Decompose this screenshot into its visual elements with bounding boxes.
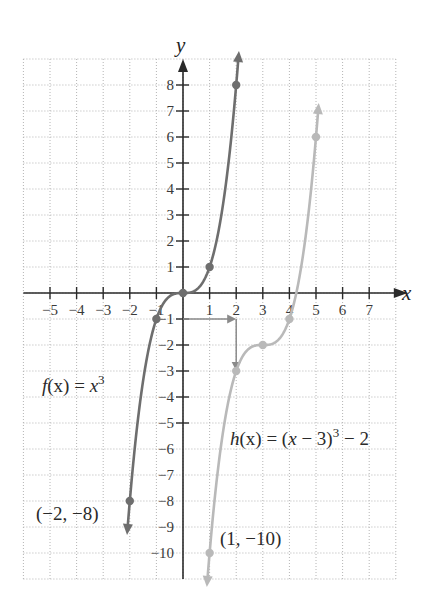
data-point (152, 315, 160, 323)
point-label-h: (1, −10) (220, 528, 281, 550)
curve-end-arrow-icon (233, 51, 243, 62)
data-point (232, 367, 240, 375)
y-axis-label: y (174, 33, 186, 57)
x-tick-label: 5 (312, 302, 320, 318)
y-tick-label: −7 (158, 467, 174, 483)
x-tick-label: 7 (365, 302, 373, 318)
data-point (285, 315, 293, 323)
y-tick-label: 1 (167, 259, 175, 275)
y-tick-label: −8 (158, 493, 174, 509)
h-name: h (230, 428, 240, 449)
y-tick-label: −4 (158, 389, 174, 405)
y-tick-label: 7 (167, 103, 175, 119)
data-point (259, 341, 267, 349)
x-tick-label: 1 (206, 302, 214, 318)
y-tick-label: −3 (158, 363, 174, 379)
y-tick-label: 8 (167, 77, 175, 93)
data-point (126, 497, 134, 505)
h-tail: − 2 (339, 428, 369, 449)
x-tick-label: −5 (42, 302, 58, 318)
y-axis-arrow-icon (178, 59, 188, 72)
curve-end-arrow-icon (123, 524, 133, 535)
y-tick-label: −10 (151, 545, 174, 561)
curve-end-arrow-icon (313, 103, 323, 114)
y-tick-label: 3 (167, 207, 175, 223)
data-point (205, 263, 213, 271)
point-label-f: (−2, −8) (36, 503, 99, 525)
f-function-label: f(x) = x3 (42, 372, 105, 397)
f-arg: (x) = (47, 375, 89, 397)
y-tick-label: −6 (158, 441, 174, 457)
x-tick-label: −3 (95, 302, 111, 318)
y-tick-label: 5 (167, 155, 175, 171)
data-point (205, 549, 213, 557)
x-tick-label: 2 (232, 302, 240, 318)
y-tick-label: −9 (158, 519, 174, 535)
shift-arrows (183, 315, 241, 372)
h-arg: (x) = ( (240, 428, 289, 450)
cubic-transformation-graph: −5−4−3−2−1123456787654321−1−2−3−4−5−6−7−… (0, 0, 442, 610)
y-tick-label: −5 (158, 415, 174, 431)
data-point (179, 289, 187, 297)
y-tick-label: 2 (167, 233, 175, 249)
curve-end-arrow-icon (203, 576, 213, 587)
f-exponent: 3 (98, 372, 105, 387)
x-tick-label: −2 (122, 302, 138, 318)
y-tick-label: −2 (158, 337, 174, 353)
x-axis-label: x (401, 281, 412, 305)
x-tick-label: 6 (339, 302, 347, 318)
data-point (312, 133, 320, 141)
x-tick-label: 3 (259, 302, 267, 318)
x-tick-label: −4 (69, 302, 85, 318)
data-point (232, 81, 240, 89)
h-function-label: h(x) = (x − 3)3 − 2 (230, 425, 369, 450)
h-mid: − 3) (297, 428, 333, 450)
y-tick-label: 6 (167, 129, 175, 145)
y-tick-label: 4 (167, 181, 175, 197)
